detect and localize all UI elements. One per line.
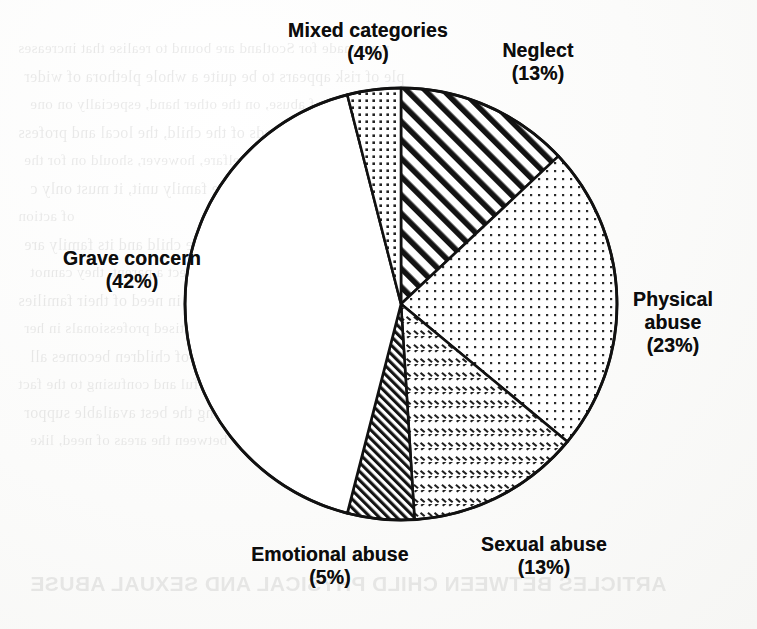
pie-chart: Mixed categories(4%) Neglect(13%) Physic…	[0, 0, 757, 629]
label-line: abuse	[633, 311, 713, 334]
slice-label-grave-concern: Grave concern(42%)	[63, 247, 201, 293]
label-line: (13%)	[481, 556, 607, 579]
label-line: (23%)	[633, 333, 713, 356]
label-line: Mixed categories	[288, 19, 448, 42]
label-line: Physical	[633, 288, 713, 311]
label-line: (42%)	[63, 270, 201, 293]
label-line: (13%)	[502, 62, 573, 85]
slice-label-mixed-categories: Mixed categories(4%)	[288, 19, 448, 65]
label-line: Grave concern	[63, 247, 201, 270]
label-line: Sexual abuse	[481, 533, 607, 556]
label-line: (5%)	[251, 566, 409, 589]
slice-label-neglect: Neglect(13%)	[502, 39, 573, 85]
label-line: Emotional abuse	[251, 543, 409, 566]
slice-label-sexual-abuse: Sexual abuse(13%)	[481, 533, 607, 579]
slice-label-emotional-abuse: Emotional abuse(5%)	[251, 543, 409, 589]
slice-label-physical-abuse: Physicalabuse(23%)	[633, 288, 713, 356]
label-line: (4%)	[288, 42, 448, 65]
label-line: Neglect	[502, 39, 573, 62]
